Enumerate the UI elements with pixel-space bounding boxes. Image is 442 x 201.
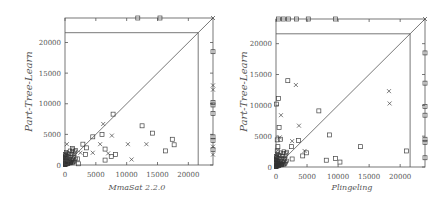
data-point-sat — [91, 151, 95, 155]
data-point-unsat — [91, 135, 95, 139]
plot-area: 0050005000100001000015000150002000020000 — [221, 0, 442, 201]
data-point-sat — [279, 113, 283, 117]
data-point-unsat — [277, 126, 281, 130]
y-axis-label: Part-Tree-Learn — [23, 32, 34, 152]
data-point-unsat — [290, 145, 294, 149]
x-axis-label: Plingeling — [292, 183, 412, 192]
x-tick-label: 0 — [63, 171, 67, 179]
data-point-sat — [294, 83, 298, 87]
data-point-sat — [388, 101, 392, 105]
diagonal-line — [65, 18, 213, 165]
y-tick-label: 10000 — [250, 102, 272, 110]
y-tick-label: 20000 — [39, 39, 61, 47]
x-tick-label: 5000 — [298, 173, 316, 181]
data-point-unsat — [151, 131, 155, 135]
data-point-unsat — [276, 145, 280, 149]
data-point-unsat — [83, 153, 87, 157]
data-point-unsat — [334, 156, 338, 160]
data-point-sat — [110, 134, 114, 138]
data-point-sat — [290, 139, 294, 143]
y-axis-label: Part-Tree-Learn — [238, 32, 249, 152]
data-point-unsat — [103, 147, 107, 151]
data-point-sat — [98, 142, 102, 146]
data-point-unsat — [170, 137, 174, 141]
data-point-sat — [101, 122, 105, 126]
data-point-unsat — [290, 157, 294, 161]
data-point-unsat — [327, 133, 331, 137]
data-point-sat — [78, 151, 82, 155]
data-point-unsat — [358, 145, 362, 149]
data-point-unsat — [140, 124, 144, 128]
x-axis-label: MmaSat 2.2.0 — [77, 183, 197, 192]
chart-plingeling-vs-part-tree-learn: 0050005000100001000015000150002000020000… — [221, 0, 442, 201]
x-tick-label: 15000 — [146, 171, 168, 179]
x-tick-label: 20000 — [177, 171, 199, 179]
data-point-unsat — [100, 132, 104, 136]
data-point-unsat — [317, 109, 321, 113]
y-tick-label: 0 — [268, 164, 272, 172]
data-point-sat — [297, 124, 301, 128]
y-tick-label: 15000 — [250, 71, 272, 79]
y-tick-label: 5000 — [43, 131, 61, 139]
data-point-unsat — [286, 79, 290, 83]
data-point-sat — [126, 142, 130, 146]
data-point-unsat — [164, 149, 168, 153]
data-point-unsat — [172, 143, 176, 147]
x-tick-label: 10000 — [327, 173, 349, 181]
x-tick-label: 15000 — [358, 173, 380, 181]
data-point-sat — [65, 142, 69, 146]
x-tick-label: 0 — [274, 173, 278, 181]
x-tick-label: 5000 — [87, 171, 105, 179]
y-tick-label: 5000 — [254, 133, 272, 141]
data-point-unsat — [338, 160, 342, 164]
x-tick-label: 10000 — [116, 171, 138, 179]
y-tick-label: 0 — [57, 162, 61, 170]
data-point-unsat — [296, 138, 300, 142]
y-tick-label: 20000 — [250, 40, 272, 48]
data-point-sat — [144, 142, 148, 146]
y-tick-label: 15000 — [39, 70, 61, 78]
data-point-unsat — [103, 158, 107, 162]
data-point-unsat — [276, 97, 280, 101]
data-point-unsat — [324, 158, 328, 162]
data-point-unsat — [404, 149, 408, 153]
diagonal-line — [276, 19, 425, 167]
chart-mmasat-vs-part-tree-learn: 0050005000100001000015000150002000020000… — [0, 0, 221, 201]
y-tick-label: 10000 — [39, 100, 61, 108]
data-point-sat — [130, 157, 134, 161]
data-point-unsat — [114, 153, 118, 157]
x-tick-label: 20000 — [389, 173, 411, 181]
data-point-sat — [387, 89, 391, 93]
